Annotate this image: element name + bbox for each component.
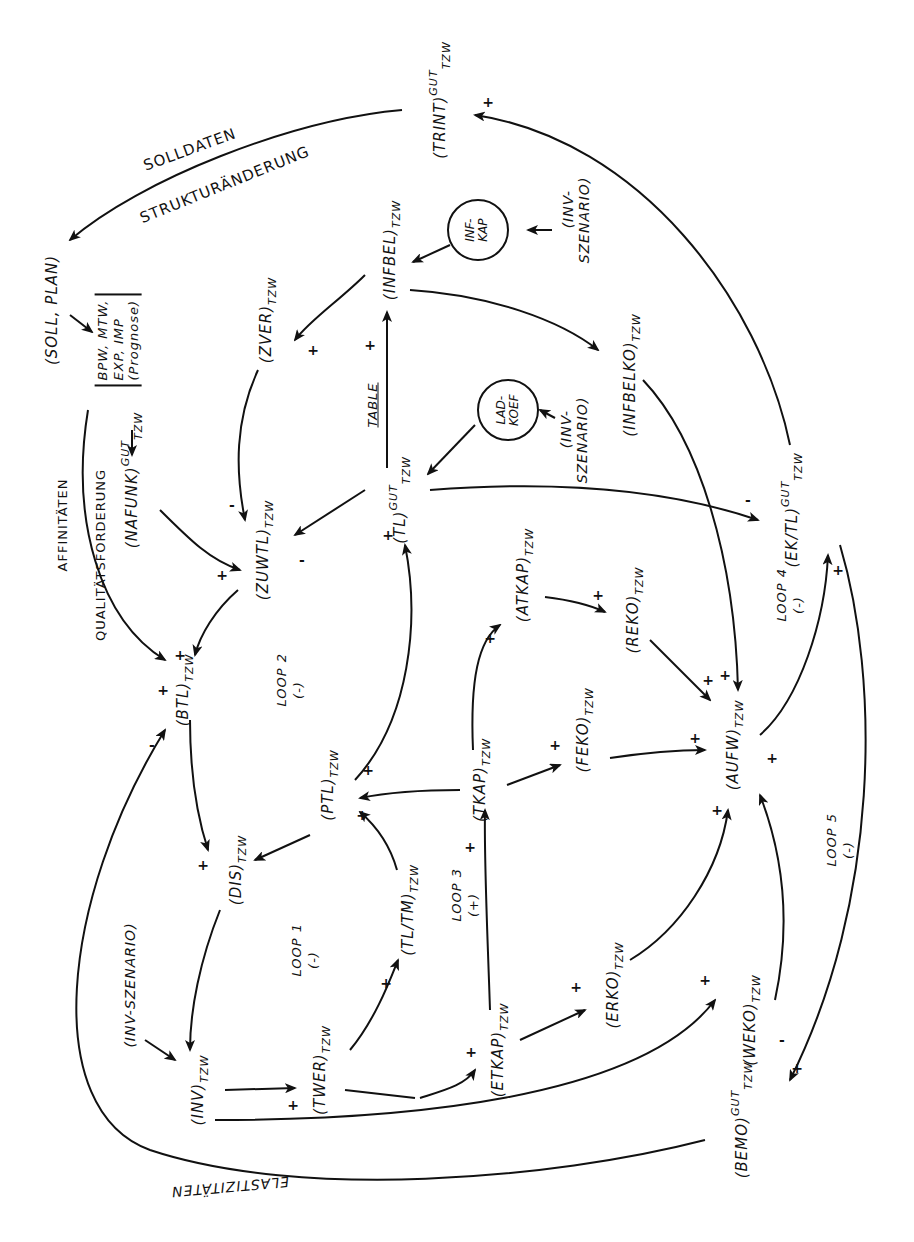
sign-plus: + [699,972,711,988]
node-nafunk: (NAFUNK)GUTTZW [120,412,144,548]
node-aufw: (AUFW)TZW [726,700,745,791]
edge-label-table: TABLE [366,382,379,427]
edge-label-qualitaetsforderung: QUALITÄTSFORDERUNG [94,469,107,641]
sign-minus: - [779,1032,785,1048]
edge-ptl-to-dis [255,835,310,860]
sign-plus: + [484,630,496,646]
node-twer: (TWER)TZW [313,1025,332,1115]
node-weko: (WEKO)TZW [743,974,762,1065]
edge-ptl-to-tl [355,545,411,780]
loop-4-label: LOOP 4 (-) [758,568,823,642]
edge-infbel-to-zver [295,275,365,340]
node-tl-tm: (TL/TM)TZW [401,864,420,956]
edge-nafunk-to-zuwtl [160,510,240,570]
node-infbel: (INFBEL)TZW [383,200,402,300]
sign-plus: + [464,839,476,855]
node-ptl: (PTL)TZW [321,749,340,820]
node-erko: (ERKO)TZW [606,942,625,1029]
sign-minus: - [299,552,305,568]
edge-infbel-to-infbelko [410,290,598,350]
edge-infkap-to-infbel [413,245,450,262]
node-bemo: (BEMO)GUTTZW [730,1062,754,1179]
sign-plus: + [380,975,392,991]
sign-plus: + [174,647,186,663]
edge-inv-to-twer [225,1088,295,1090]
edge-label-affinitaeten: AFFINITÄTEN [56,479,69,572]
node-inv: (INV)TZW [191,1055,210,1126]
edge-invsz-to-inv [145,1040,175,1060]
edge-zver-to-zuwtl [239,370,258,520]
node-prognose-box: BPW, MTW, EXP, IMP (Prognose) [95,294,142,387]
sign-plus: + [711,802,723,818]
edge-feko-to-aufw [610,750,705,758]
sign-minus: - [149,737,155,753]
sign-plus: + [482,94,494,110]
node-etkap: (ETKAP)TZW [491,1003,510,1098]
edge-btl-to-dis [190,720,208,850]
sign-plus: + [356,807,368,823]
edge-twer-to-tl-tm [350,960,398,1050]
causal-loop-diagram: (TRINT)GUTTZW (SOLL, PLAN) BPW, MTW, EXP… [0,0,914,1242]
sign-plus: + [689,730,701,746]
node-zuwtl: (ZUWTL)TZW [256,500,275,600]
node-feko: (FEKO)TZW [576,687,595,772]
edge-twer-to-etkap [345,1090,415,1098]
sign-plus: + [216,567,228,583]
edge-dis-to-inv [190,910,220,1050]
edge-tkap-to-ptl [360,790,460,798]
sign-plus: + [157,682,169,698]
sign-plus: + [197,857,209,873]
node-soll-plan: (SOLL, PLAN) [45,255,60,365]
node-reko: (REKO)TZW [626,567,645,654]
sign-plus: + [766,750,778,766]
sign-plus: + [382,527,394,543]
edge-twer-to-etkap-2 [420,1070,475,1098]
node-trint: (TRINT)GUTTZW [428,41,452,159]
node-dis: (DIS)TZW [229,835,248,905]
loop-1-label: LOOP 1 (-) [273,923,338,997]
edge-tkap-to-feko [507,765,560,785]
node-btl: (BTL)TZW [176,654,195,727]
sign-minus: - [229,497,235,513]
sign-plus: + [307,342,319,358]
node-ek-tl: (EK/TL)GUTTZW [780,452,804,567]
node-infkap-circle: INF- KAP [447,199,509,261]
edge-tl-to-zuwtl [295,490,365,535]
sign-plus: + [549,737,561,753]
sign-plus: + [570,979,582,995]
node-inv-szenario-mid: (INV- SZENARIO) [544,397,606,484]
sign-plus: + [287,1097,299,1113]
edge-reko-to-aufw [650,640,710,700]
edge-ladkoef-to-tl [428,425,475,474]
edge-soll-to-prognose [70,315,92,332]
node-infbelko: (INFBELKO)TZW [623,313,642,436]
edge-weko-to-aufw [760,795,783,1000]
loop-2-label: LOOP 2 (-) [258,653,323,727]
edge-erko-to-aufw [630,810,728,960]
sign-plus: + [592,587,604,603]
sign-plus: + [364,337,376,353]
node-atkap: (ATKAP)TZW [516,528,535,622]
sign-plus: + [832,562,844,578]
sign-plus: + [702,672,714,688]
sign-plus: + [465,1044,477,1060]
loop-3-label: LOOP 3 (+) [433,868,498,942]
sign-minus: - [745,492,751,508]
node-tkap: (TKAP)TZW [473,738,492,822]
sign-plus: + [791,1060,803,1076]
loop-5-label: LOOP 5 (-) [808,813,873,887]
sign-plus: + [362,762,374,778]
node-inv-szenario-left: (INV-SZENARIO) [123,922,137,1047]
node-zver: (ZVER)TZW [259,277,278,363]
edge-etkap-to-erko [520,1010,585,1040]
edge-zuwtl-to-btl [195,590,238,655]
node-inv-szenario-top: (INV- SZENARIO) [546,177,608,264]
edge-infbelko-to-aufw [643,380,738,690]
sign-plus: + [719,667,731,683]
node-ladkoef-circle: LAD- KOEF [477,379,539,441]
